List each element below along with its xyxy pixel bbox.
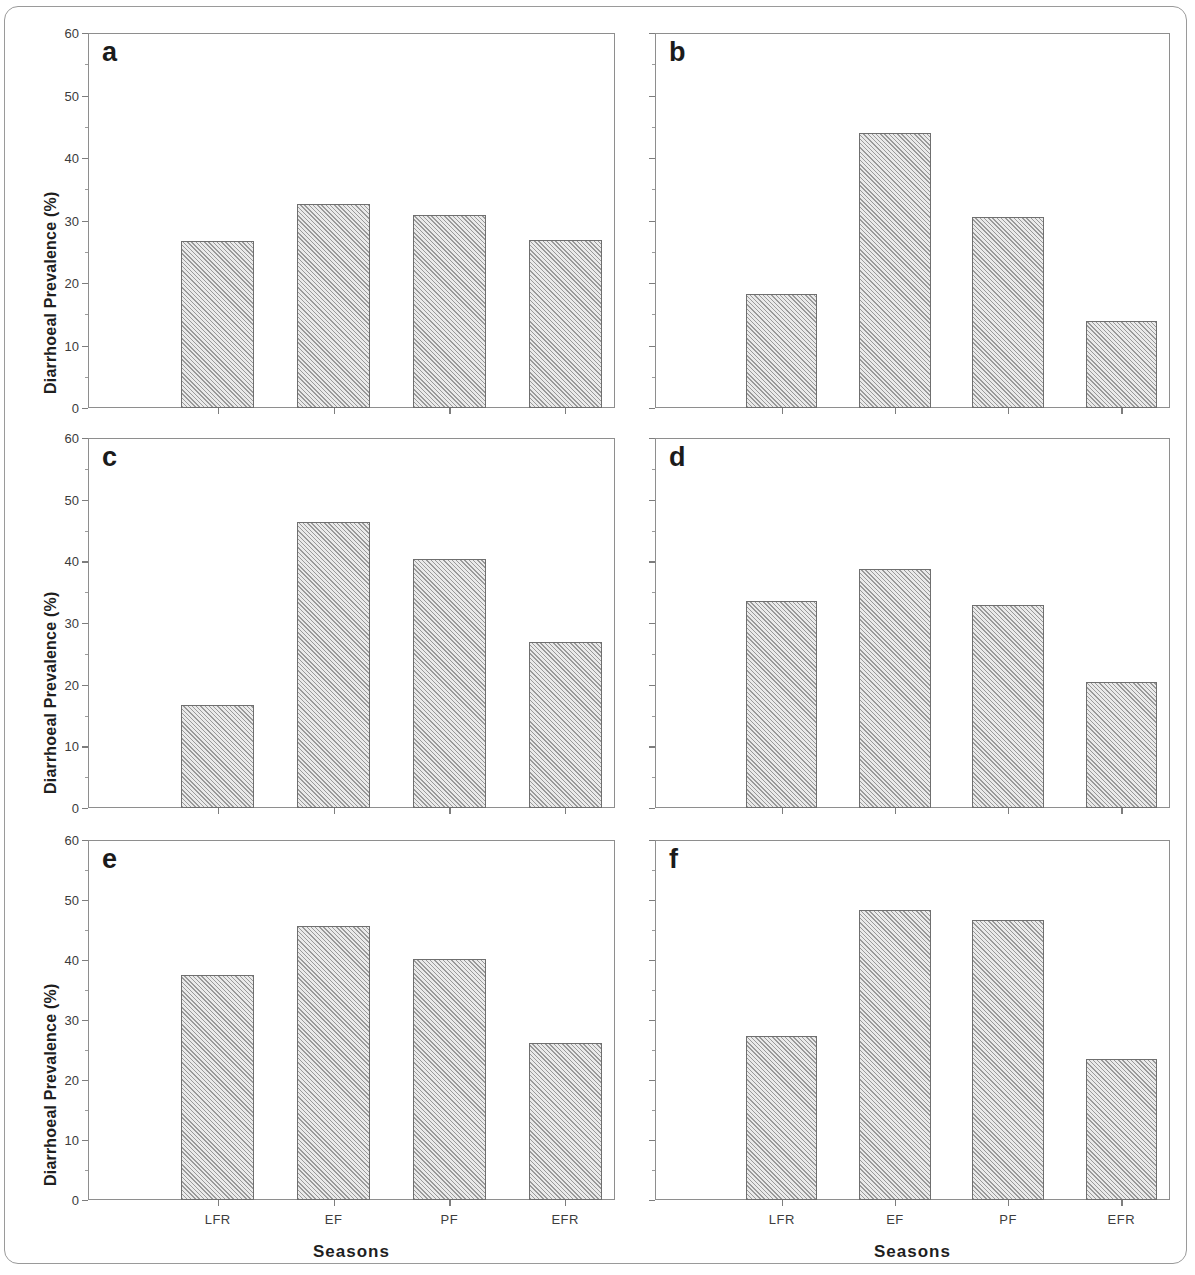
x-tick-a-efr (565, 408, 566, 414)
y-tick-label-c-10: 10 (65, 739, 79, 754)
x-axis-title-f: Seasons (874, 1242, 951, 1262)
bar-f-pf (972, 920, 1043, 1200)
x-tick-a-pf (449, 408, 450, 414)
x-tick-label-f-efr: EFR (1108, 1212, 1136, 1227)
y-tick-label-a-20: 20 (65, 276, 79, 291)
bars-group-e (88, 840, 615, 1200)
bars-group-a (88, 33, 615, 408)
bar-f-lfr (746, 1036, 817, 1200)
bar-e-ef (297, 926, 370, 1200)
y-tick-label-e-30: 30 (65, 1013, 79, 1028)
y-tick-label-a-50: 50 (65, 88, 79, 103)
bar-a-pf (413, 215, 486, 408)
y-tick-label-a-10: 10 (65, 338, 79, 353)
bar-c-pf (413, 559, 486, 808)
x-tick-b-lfr (782, 408, 783, 414)
x-tick-e-efr (565, 1200, 566, 1206)
y-tick-label-e-40: 40 (65, 953, 79, 968)
bar-d-pf (972, 605, 1043, 808)
x-tick-a-lfr (218, 408, 219, 414)
bar-c-efr (529, 642, 602, 808)
x-tick-f-lfr (782, 1200, 783, 1206)
bar-c-lfr (181, 705, 254, 808)
y-tick-a-0 (82, 408, 88, 409)
x-tick-e-lfr (218, 1200, 219, 1206)
x-tick-c-lfr (218, 808, 219, 814)
x-tick-label-f-pf: PF (999, 1212, 1017, 1227)
bar-d-lfr (746, 601, 817, 808)
bar-c-ef (297, 522, 370, 808)
y-axis-title-a: Diarrhoeal Prevalence (%) (42, 192, 60, 394)
x-tick-f-ef (895, 1200, 896, 1206)
x-tick-label-e-lfr: LFR (205, 1212, 231, 1227)
bars-group-d (655, 438, 1170, 808)
x-tick-b-efr (1121, 408, 1122, 414)
x-tick-d-efr (1121, 808, 1122, 814)
y-axis-title-c: Diarrhoeal Prevalence (%) (42, 592, 60, 794)
y-tick-label-e-0: 0 (72, 1193, 79, 1208)
chart-panel-e: e0102030405060LFREFPFEFR (88, 840, 615, 1200)
bar-e-pf (413, 959, 486, 1200)
chart-panel-d: d (655, 438, 1170, 808)
y-tick-label-c-0: 0 (72, 801, 79, 816)
y-tick-label-c-30: 30 (65, 616, 79, 631)
x-tick-label-e-ef: EF (325, 1212, 343, 1227)
y-tick-label-c-50: 50 (65, 492, 79, 507)
x-tick-e-pf (449, 1200, 450, 1206)
x-tick-c-ef (334, 808, 335, 814)
chart-panel-b: b (655, 33, 1170, 408)
bar-b-lfr (746, 294, 817, 408)
y-axis-title-e: Diarrhoeal Prevalence (%) (42, 984, 60, 1186)
y-tick-label-a-40: 40 (65, 151, 79, 166)
x-tick-f-pf (1008, 1200, 1009, 1206)
bar-b-efr (1086, 321, 1157, 408)
bar-d-ef (859, 569, 930, 808)
bar-b-ef (859, 133, 930, 408)
x-tick-label-e-efr: EFR (551, 1212, 579, 1227)
y-tick-f-0 (649, 1200, 655, 1201)
chart-panel-c: c0102030405060 (88, 438, 615, 808)
y-tick-label-e-60: 60 (65, 833, 79, 848)
bars-group-b (655, 33, 1170, 408)
y-tick-label-c-60: 60 (65, 431, 79, 446)
y-tick-label-a-60: 60 (65, 26, 79, 41)
x-tick-f-efr (1121, 1200, 1122, 1206)
x-tick-label-f-lfr: LFR (769, 1212, 795, 1227)
bars-group-f (655, 840, 1170, 1200)
y-tick-label-a-0: 0 (72, 401, 79, 416)
x-tick-c-pf (449, 808, 450, 814)
x-tick-label-e-pf: PF (441, 1212, 459, 1227)
x-tick-d-pf (1008, 808, 1009, 814)
y-tick-label-a-30: 30 (65, 213, 79, 228)
bar-a-ef (297, 204, 370, 408)
y-tick-label-c-20: 20 (65, 677, 79, 692)
x-tick-e-ef (334, 1200, 335, 1206)
panel-grid: Diarrhoeal Prevalence (%)a0102030405060b… (0, 0, 1195, 1275)
bar-e-lfr (181, 975, 254, 1200)
bar-e-efr (529, 1043, 602, 1200)
bar-f-ef (859, 910, 930, 1200)
bar-d-efr (1086, 682, 1157, 808)
bar-a-lfr (181, 241, 254, 409)
bar-a-efr (529, 240, 602, 408)
x-tick-d-lfr (782, 808, 783, 814)
y-tick-label-e-10: 10 (65, 1133, 79, 1148)
x-tick-b-pf (1008, 408, 1009, 414)
x-tick-c-efr (565, 808, 566, 814)
y-tick-d-0 (649, 808, 655, 809)
x-axis-title-e: Seasons (313, 1242, 390, 1262)
bar-b-pf (972, 217, 1043, 408)
y-tick-label-c-40: 40 (65, 554, 79, 569)
y-tick-e-0 (82, 1200, 88, 1201)
x-tick-label-f-ef: EF (886, 1212, 904, 1227)
chart-panel-f: fLFREFPFEFR (655, 840, 1170, 1200)
bars-group-c (88, 438, 615, 808)
x-tick-b-ef (895, 408, 896, 414)
y-tick-b-0 (649, 408, 655, 409)
y-tick-label-e-50: 50 (65, 893, 79, 908)
y-tick-c-0 (82, 808, 88, 809)
x-tick-a-ef (334, 408, 335, 414)
y-tick-label-e-20: 20 (65, 1073, 79, 1088)
chart-panel-a: a0102030405060 (88, 33, 615, 408)
bar-f-efr (1086, 1059, 1157, 1200)
